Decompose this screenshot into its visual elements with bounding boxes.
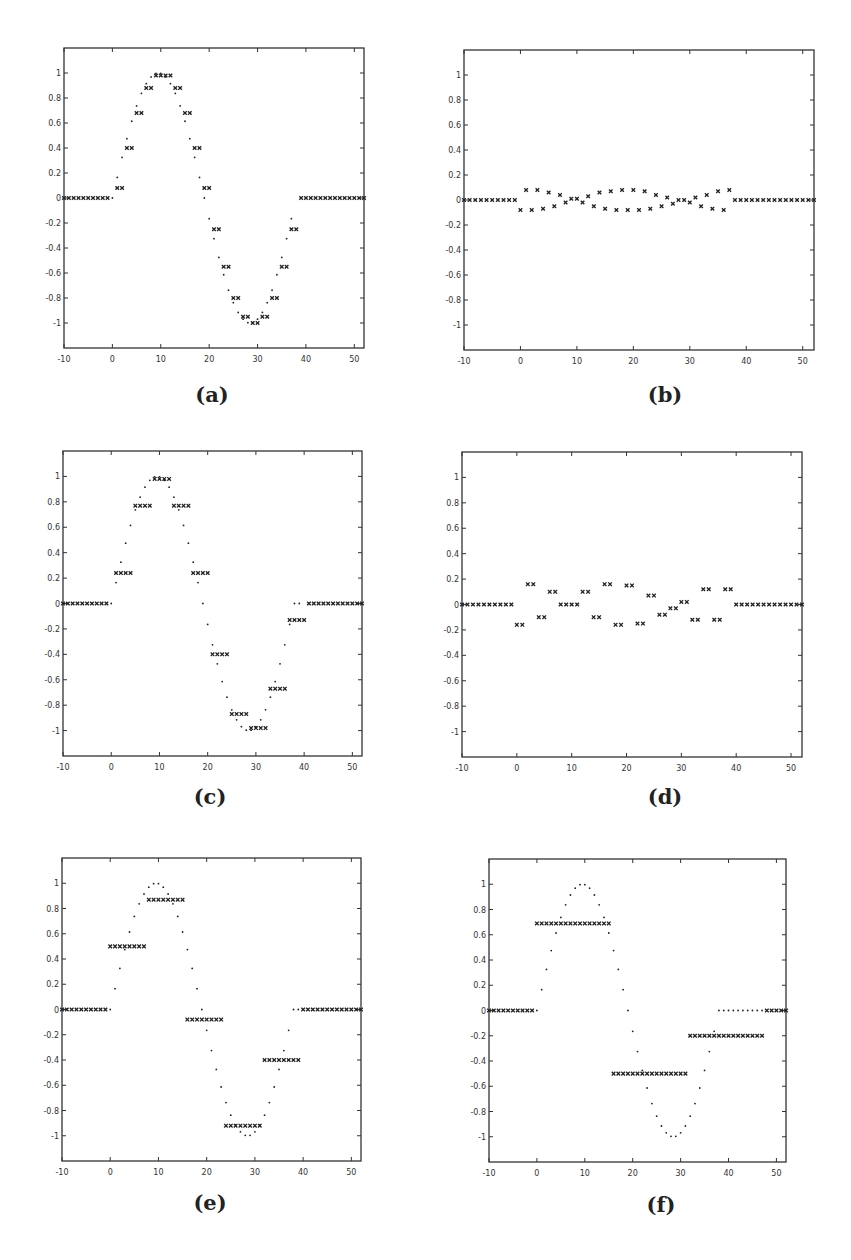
- y-tick-label: -1: [478, 1133, 486, 1142]
- x-tick-label: 10: [156, 355, 166, 364]
- y-tick-label: 0.6: [446, 524, 459, 533]
- x-tick-label: -10: [457, 357, 470, 366]
- x-tick-label: 50: [786, 764, 796, 773]
- y-tick-label: 0.4: [446, 550, 459, 559]
- x-tick-label: 50: [346, 1168, 356, 1177]
- x-tick-label: -10: [55, 1168, 68, 1177]
- y-tick-label: 0.8: [473, 906, 486, 915]
- plot-c: -100102030405010.80.60.40.20-0.2-0.4-0.6…: [0, 420, 425, 840]
- y-tick-label: -0.8: [443, 702, 459, 711]
- y-tick-label: 0.8: [446, 499, 459, 508]
- y-tick-label: 0.2: [446, 575, 459, 584]
- y-tick-label: -0.2: [445, 221, 461, 230]
- x-tick-label: 40: [741, 357, 751, 366]
- x-tick-label: 20: [202, 1168, 212, 1177]
- x-tick-label: 10: [572, 357, 582, 366]
- x-tick-label: 20: [621, 764, 631, 773]
- y-tick-label: 1: [55, 472, 60, 481]
- panel-c: -100102030405010.80.60.40.20-0.2-0.4-0.6…: [0, 420, 425, 840]
- x-tick-label: -10: [455, 764, 468, 773]
- y-tick-label: 0.2: [46, 980, 59, 989]
- x-tick-label: 0: [110, 355, 115, 364]
- panel-a: -100102030405010.80.60.40.20-0.2-0.4-0.6…: [0, 0, 425, 420]
- y-tick-label: 0.6: [448, 121, 461, 130]
- x-tick-label: 40: [299, 763, 309, 772]
- y-tick-label: -0.8: [43, 1107, 59, 1116]
- x-tick-label: 30: [676, 1169, 686, 1178]
- y-tick-label: 1: [56, 69, 61, 78]
- y-tick-label: 0: [454, 601, 459, 610]
- y-tick-label: 0.6: [46, 930, 59, 939]
- axes: -100102030405010.80.60.40.20-0.2-0.4-0.6…: [45, 48, 364, 364]
- y-tick-label: 0.8: [448, 96, 461, 105]
- y-tick-label: -0.2: [443, 626, 459, 635]
- y-tick-label: -0.6: [43, 1081, 59, 1090]
- y-tick-label: 0.6: [47, 523, 60, 532]
- y-tick-label: 0: [481, 1007, 486, 1016]
- y-tick-label: -1: [453, 321, 461, 330]
- caption-d: (d): [635, 784, 695, 809]
- y-tick-label: -0.4: [470, 1057, 486, 1066]
- series-detail: [462, 188, 816, 212]
- panel-e: -100102030405010.80.60.40.20-0.2-0.4-0.6…: [0, 840, 425, 1260]
- x-tick-label: 30: [685, 357, 695, 366]
- x-tick-label: 10: [154, 763, 164, 772]
- x-tick-label: 20: [203, 763, 213, 772]
- caption-a: (a): [182, 382, 242, 407]
- series-approximation: [62, 74, 366, 325]
- y-tick-label: -0.8: [44, 701, 60, 710]
- series-approximation: [61, 477, 364, 730]
- y-tick-label: -1: [53, 319, 61, 328]
- x-tick-label: -10: [482, 1169, 495, 1178]
- x-tick-label: 0: [518, 357, 523, 366]
- y-tick-label: -0.6: [443, 677, 459, 686]
- y-tick-label: 0: [56, 194, 61, 203]
- y-tick-label: -0.8: [445, 296, 461, 305]
- y-tick-label: -0.6: [470, 1082, 486, 1091]
- caption-f: (f): [631, 1192, 691, 1217]
- axes: -100102030405010.80.60.40.20-0.2-0.4-0.6…: [44, 451, 362, 772]
- y-tick-label: -0.4: [443, 651, 459, 660]
- y-tick-label: -0.4: [44, 650, 60, 659]
- y-tick-label: 0.4: [48, 144, 61, 153]
- y-tick-label: 0: [456, 196, 461, 205]
- panel-d: -100102030405010.80.60.40.20-0.2-0.4-0.6…: [425, 420, 851, 840]
- plot-d: -100102030405010.80.60.40.20-0.2-0.4-0.6…: [425, 420, 851, 840]
- y-tick-label: 1: [454, 473, 459, 482]
- x-tick-label: -10: [56, 763, 69, 772]
- y-tick-label: -0.2: [45, 219, 61, 228]
- y-tick-label: -0.2: [43, 1031, 59, 1040]
- caption-b: (b): [635, 382, 695, 407]
- y-tick-label: 0.2: [47, 574, 60, 583]
- x-tick-label: 20: [628, 357, 638, 366]
- y-tick-label: -1: [51, 1132, 59, 1141]
- x-tick-label: 0: [514, 764, 519, 773]
- y-tick-label: -0.6: [45, 269, 61, 278]
- y-tick-label: 0.4: [473, 956, 486, 965]
- y-tick-label: 0.6: [48, 119, 61, 128]
- y-tick-label: -0.4: [43, 1056, 59, 1065]
- y-tick-label: 0.2: [48, 169, 61, 178]
- y-tick-label: -0.6: [445, 271, 461, 280]
- plot-b: -100102030405010.80.60.40.20-0.2-0.4-0.6…: [425, 0, 851, 420]
- x-tick-label: 40: [301, 355, 311, 364]
- y-tick-label: 0.4: [47, 549, 60, 558]
- y-tick-label: 0.8: [47, 498, 60, 507]
- y-tick-label: 0.8: [48, 94, 61, 103]
- x-tick-label: 20: [204, 355, 214, 364]
- x-tick-label: -10: [57, 355, 70, 364]
- x-tick-label: 30: [676, 764, 686, 773]
- axes: -100102030405010.80.60.40.20-0.2-0.4-0.6…: [470, 859, 786, 1178]
- y-tick-label: 1: [456, 71, 461, 80]
- x-tick-label: 10: [567, 764, 577, 773]
- series-detail: [460, 582, 804, 626]
- plot-a: -100102030405010.80.60.40.20-0.2-0.4-0.6…: [0, 0, 425, 420]
- y-tick-label: 1: [481, 880, 486, 889]
- x-tick-label: 20: [628, 1169, 638, 1178]
- y-tick-label: 0.2: [448, 171, 461, 180]
- x-tick-label: 10: [580, 1169, 590, 1178]
- y-tick-label: 0.4: [448, 146, 461, 155]
- x-tick-label: 30: [250, 1168, 260, 1177]
- axes: -100102030405010.80.60.40.20-0.2-0.4-0.6…: [445, 50, 814, 366]
- y-tick-label: -0.2: [44, 625, 60, 634]
